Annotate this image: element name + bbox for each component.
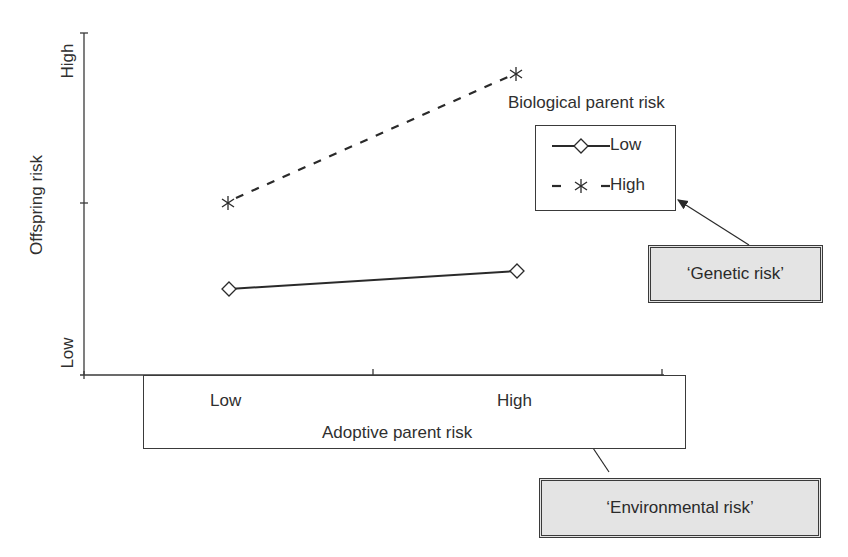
series-low [222, 264, 524, 296]
y-tick-low: Low [58, 333, 78, 373]
diamond-marker [222, 282, 236, 296]
x-axis-title: Adoptive parent risk [322, 423, 472, 443]
y-axis [80, 33, 88, 375]
x-tick-low: Low [210, 391, 241, 411]
legend-title: Biological parent risk [508, 93, 665, 113]
legend: Low High [535, 125, 676, 211]
legend-label-low: Low [610, 135, 641, 155]
asterisk-marker [222, 196, 234, 210]
series-high [222, 67, 522, 210]
genetic-risk-callout: ‘Genetic risk’ [648, 245, 823, 303]
y-tick-high: High [58, 41, 78, 81]
y-axis-title: Offspring risk [27, 150, 47, 260]
asterisk-marker [510, 67, 522, 81]
legend-label-high: High [610, 175, 645, 195]
environmental-risk-callout: ‘Environmental risk’ [539, 478, 821, 538]
diamond-marker [510, 264, 524, 278]
x-axis-label-box: Low High Adoptive parent risk [143, 375, 686, 449]
genetic-arrow [678, 200, 749, 245]
x-tick-high: High [497, 391, 532, 411]
legend-item-low: Low [536, 133, 675, 163]
legend-item-high: High [536, 173, 675, 203]
